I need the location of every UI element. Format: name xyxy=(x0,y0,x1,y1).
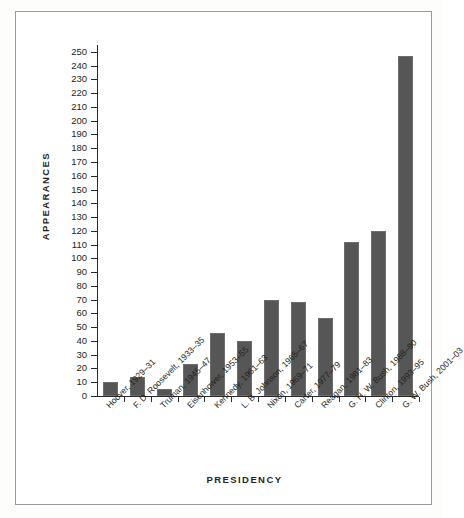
y-tick-label-80: 80 xyxy=(57,279,87,292)
x-tick xyxy=(178,397,179,402)
y-tick-30: 30 xyxy=(91,355,97,356)
x-axis-title: PRESIDENCY xyxy=(0,474,443,485)
y-tick-label-0: 0 xyxy=(57,389,87,402)
y-tick-label-150: 150 xyxy=(57,183,87,196)
x-axis-title-text: PRESIDENCY xyxy=(207,474,283,485)
y-tick-label-110: 110 xyxy=(57,238,87,251)
y-tick-label-240: 240 xyxy=(57,59,87,72)
y-tick-label-200: 200 xyxy=(57,114,87,127)
y-tick-label-120: 120 xyxy=(57,224,87,237)
y-tick-label-190: 190 xyxy=(57,127,87,140)
y-tick-160: 160 xyxy=(91,176,97,177)
y-tick-20: 20 xyxy=(91,368,97,369)
y-tick-190: 190 xyxy=(91,134,97,135)
y-tick-label-100: 100 xyxy=(57,251,87,264)
y-axis-line xyxy=(97,45,98,397)
x-tick xyxy=(312,397,313,402)
y-tick-label-60: 60 xyxy=(57,306,87,319)
chart-frame: APPEARANCES 0102030405060708090100110120… xyxy=(15,11,432,505)
y-tick-label-250: 250 xyxy=(57,45,87,58)
y-tick-40: 40 xyxy=(91,341,97,342)
y-tick-100: 100 xyxy=(91,258,97,259)
y-tick-label-70: 70 xyxy=(57,293,87,306)
plot-area: 0102030405060708090100110120130140150160… xyxy=(97,45,422,396)
y-tick-60: 60 xyxy=(91,313,97,314)
y-tick-0: 0 xyxy=(91,396,97,397)
x-tick xyxy=(151,397,152,402)
y-tick-label-90: 90 xyxy=(57,265,87,278)
y-tick-250: 250 xyxy=(91,52,97,53)
y-tick-label-210: 210 xyxy=(57,100,87,113)
y-axis-title: APPEARANCES xyxy=(40,152,51,240)
y-tick-label-230: 230 xyxy=(57,72,87,85)
y-tick-label-160: 160 xyxy=(57,169,87,182)
x-tick xyxy=(124,397,125,402)
y-tick-label-20: 20 xyxy=(57,361,87,374)
y-tick-80: 80 xyxy=(91,286,97,287)
y-tick-label-170: 170 xyxy=(57,155,87,168)
y-tick-220: 220 xyxy=(91,93,97,94)
y-tick-label-180: 180 xyxy=(57,141,87,154)
y-tick-180: 180 xyxy=(91,148,97,149)
y-tick-label-30: 30 xyxy=(57,348,87,361)
y-tick-label-140: 140 xyxy=(57,196,87,209)
y-tick-90: 90 xyxy=(91,272,97,273)
y-tick-130: 130 xyxy=(91,217,97,218)
y-tick-label-220: 220 xyxy=(57,86,87,99)
y-tick-70: 70 xyxy=(91,300,97,301)
y-tick-240: 240 xyxy=(91,66,97,67)
y-tick-120: 120 xyxy=(91,231,97,232)
y-tick-10: 10 xyxy=(91,382,97,383)
y-tick-150: 150 xyxy=(91,190,97,191)
y-tick-110: 110 xyxy=(91,245,97,246)
y-tick-label-50: 50 xyxy=(57,320,87,333)
x-tick xyxy=(285,397,286,402)
y-tick-140: 140 xyxy=(91,203,97,204)
y-tick-label-130: 130 xyxy=(57,210,87,223)
y-tick-210: 210 xyxy=(91,107,97,108)
x-tick xyxy=(339,397,340,402)
y-tick-200: 200 xyxy=(91,121,97,122)
y-tick-label-10: 10 xyxy=(57,375,87,388)
y-tick-170: 170 xyxy=(91,162,97,163)
y-tick-50: 50 xyxy=(91,327,97,328)
y-tick-230: 230 xyxy=(91,79,97,80)
y-tick-label-40: 40 xyxy=(57,334,87,347)
